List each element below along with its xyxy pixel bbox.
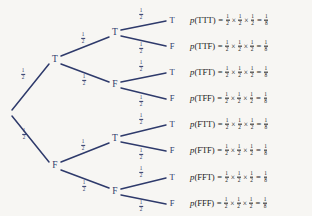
times-sign: × <box>229 146 238 153</box>
times-sign: × <box>241 173 250 180</box>
factor-fraction: 12 <box>225 143 229 156</box>
tree-edge <box>61 143 109 162</box>
result-fraction: 18 <box>264 39 268 52</box>
tree-edge <box>121 73 166 82</box>
factor-fraction: 12 <box>238 117 242 130</box>
tree-node-t: T <box>52 55 58 65</box>
times-sign: × <box>228 199 237 206</box>
equals-sign: = <box>215 42 225 51</box>
factor-fraction: 12 <box>250 170 254 183</box>
tree-edge <box>12 116 49 162</box>
outcome-label: FTF <box>197 146 212 155</box>
factor-fraction: 12 <box>237 143 241 156</box>
tree-edge <box>121 142 166 151</box>
equals-sign: = <box>215 68 225 77</box>
edge-probability-label: 12 <box>139 166 143 178</box>
tree-edge <box>61 37 109 56</box>
tree-node-ff: F <box>112 187 117 197</box>
factor-fraction: 12 <box>225 65 229 78</box>
tree-node-ft: T <box>112 134 118 144</box>
factor-fraction: 12 <box>237 91 241 104</box>
equals-sign: = <box>254 42 264 51</box>
outcome-equation-row: p(TFT)=12×12×12=18 <box>190 66 268 79</box>
result-fraction: 18 <box>264 65 268 78</box>
times-sign: × <box>242 16 251 23</box>
tree-edges <box>0 0 312 216</box>
equals-sign: = <box>254 16 264 25</box>
edge-probability-label: 12 <box>22 128 26 140</box>
outcome-equation-row: p(TTT)=12×12×12=18 <box>190 14 268 27</box>
edge-probability-label: 12 <box>139 42 143 54</box>
times-sign: × <box>229 68 238 75</box>
factor-fraction: 12 <box>226 13 230 26</box>
result-fraction: 18 <box>263 196 267 209</box>
tree-node-f: F <box>52 161 57 171</box>
equals-sign: = <box>215 173 225 182</box>
tree-edge <box>12 64 49 110</box>
tree-leaf-node: T <box>169 16 174 25</box>
times-sign: × <box>229 173 238 180</box>
equals-sign: = <box>214 199 224 208</box>
equals-sign: = <box>216 16 226 25</box>
equals-sign: = <box>215 120 225 129</box>
factor-fraction: 12 <box>225 117 229 130</box>
outcome-equation-row: p(TTF)=12×12×12=18 <box>190 40 268 53</box>
factor-fraction: 12 <box>238 39 242 52</box>
equals-sign: = <box>215 94 225 103</box>
factor-fraction: 12 <box>250 39 254 52</box>
edge-probability-label: 12 <box>139 113 143 125</box>
outcome-equation-row: p(TFF)=12×12×12=18 <box>190 92 267 105</box>
outcome-label: TTT <box>197 16 212 25</box>
factor-fraction: 12 <box>250 117 254 130</box>
edge-probability-label: 12 <box>139 200 143 212</box>
outcome-equation-row: p(FFT)=12×12×12=18 <box>190 171 267 184</box>
equals-sign: = <box>253 146 263 155</box>
equals-sign: = <box>253 199 263 208</box>
factor-fraction: 12 <box>225 39 229 52</box>
equals-sign: = <box>254 68 264 77</box>
tree-leaf-node: F <box>170 94 175 103</box>
tree-edge <box>121 195 166 204</box>
outcome-equation-row: p(FFF)=12×12×12=18 <box>190 197 267 210</box>
edge-probability-label: 12 <box>81 32 85 44</box>
equals-sign: = <box>253 94 263 103</box>
tree-leaf-node: T <box>169 68 174 77</box>
edge-probability-label: 12 <box>81 139 85 151</box>
factor-fraction: 12 <box>250 65 254 78</box>
outcome-label: TFF <box>197 94 212 103</box>
factor-fraction: 12 <box>249 196 253 209</box>
times-sign: × <box>229 42 238 49</box>
factor-fraction: 12 <box>224 196 228 209</box>
equals-sign: = <box>215 146 225 155</box>
times-sign: × <box>230 16 239 23</box>
times-sign: × <box>242 120 251 127</box>
tree-edge <box>121 88 166 99</box>
outcome-label: TTF <box>197 42 212 51</box>
result-fraction: 18 <box>264 117 268 130</box>
factor-fraction: 12 <box>250 143 254 156</box>
edge-probability-label: 12 <box>139 8 143 20</box>
tree-leaf-node: F <box>170 199 175 208</box>
factor-fraction: 12 <box>237 196 241 209</box>
probability-tree-diagram: TFTFTF TFTFTFTF 121212121212121212121212… <box>0 0 312 216</box>
tree-edge <box>121 36 166 46</box>
result-fraction: 18 <box>264 13 268 26</box>
equals-sign: = <box>253 173 263 182</box>
edge-probability-label: 12 <box>139 95 143 107</box>
times-sign: × <box>229 120 238 127</box>
equals-sign: = <box>254 120 264 129</box>
tree-leaf-node: F <box>170 42 175 51</box>
outcome-label: FTT <box>197 120 212 129</box>
tree-leaf-node: T <box>169 120 174 129</box>
outcome-label: FFF <box>197 199 211 208</box>
edge-probability-label: 12 <box>139 60 143 72</box>
factor-fraction: 12 <box>225 170 229 183</box>
times-sign: × <box>241 94 250 101</box>
edge-probability-label: 12 <box>21 68 25 80</box>
tree-leaf-node: T <box>169 173 174 182</box>
times-sign: × <box>242 42 251 49</box>
factor-fraction: 12 <box>225 91 229 104</box>
times-sign: × <box>241 146 250 153</box>
times-sign: × <box>242 68 251 75</box>
times-sign: × <box>229 94 238 101</box>
